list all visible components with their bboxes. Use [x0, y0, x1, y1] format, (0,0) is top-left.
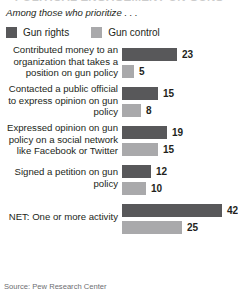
bar-group-label: Contacted a public official to express o…	[4, 83, 118, 118]
bar-group-net: NET: One or more activity 42 25	[0, 204, 238, 234]
bar-group-label: Contributed money to an organization tha…	[4, 44, 118, 79]
bar-value-gun-rights: 23	[182, 49, 193, 60]
legend-item-gun-control: Gun control	[91, 27, 160, 38]
bar-group-label: Signed a petition on gun policy	[4, 166, 118, 189]
chart-source: Source: Pew Research Center	[4, 282, 107, 291]
chart-title: POLITICAL ENGAGEMENT ON GUNS	[15, 0, 224, 3]
bar-gun-rights	[122, 87, 158, 100]
bar-group: Signed a petition on gun policy 12 10	[0, 165, 238, 195]
bar-value-gun-control: 8	[146, 105, 152, 116]
legend-label-gun-control: Gun control	[108, 27, 160, 38]
bar-gun-rights	[122, 126, 167, 139]
chart-figure: POLITICAL ENGAGEMENT ON GUNS Among those…	[0, 0, 238, 297]
legend-swatch-icon-gun-rights	[6, 27, 17, 38]
bar-gun-rights	[122, 48, 177, 61]
chart-plot-area: Contributed money to an organization tha…	[0, 48, 238, 234]
bar-gun-control	[122, 65, 134, 78]
bar-group: Contacted a public official to express o…	[0, 87, 238, 117]
bar-value-gun-control: 25	[187, 222, 198, 233]
bar-value-gun-rights: 42	[227, 205, 238, 216]
bar-gun-control	[122, 104, 141, 117]
bar-value-gun-control: 5	[139, 66, 145, 77]
bar-gun-rights	[122, 204, 222, 217]
bar-value-gun-rights: 12	[156, 166, 167, 177]
bar-group: Expressed opinion on gun policy on a soc…	[0, 126, 238, 156]
bar-gun-control	[122, 143, 158, 156]
bar-gun-control	[122, 182, 146, 195]
bar-value-gun-rights: 15	[163, 88, 174, 99]
bar-value-gun-control: 15	[163, 144, 174, 155]
bar-group: Contributed money to an organization tha…	[0, 48, 238, 78]
bar-value-gun-rights: 19	[172, 127, 183, 138]
chart-legend: Gun rights Gun control	[6, 27, 160, 38]
bar-gun-rights	[122, 165, 151, 178]
legend-label-gun-rights: Gun rights	[23, 27, 69, 38]
bar-gun-control	[122, 221, 182, 234]
legend-swatch-icon-gun-control	[91, 27, 102, 38]
bar-group-label-net: NET: One or more activity	[4, 211, 118, 223]
bar-group-label: Expressed opinion on gun policy on a soc…	[4, 122, 118, 157]
legend-item-gun-rights: Gun rights	[6, 27, 69, 38]
bar-value-gun-control: 10	[151, 183, 162, 194]
chart-subtitle: Among those who prioritize . . .	[6, 7, 138, 18]
chart-title-cropped: POLITICAL ENGAGEMENT ON GUNS	[0, 0, 238, 5]
